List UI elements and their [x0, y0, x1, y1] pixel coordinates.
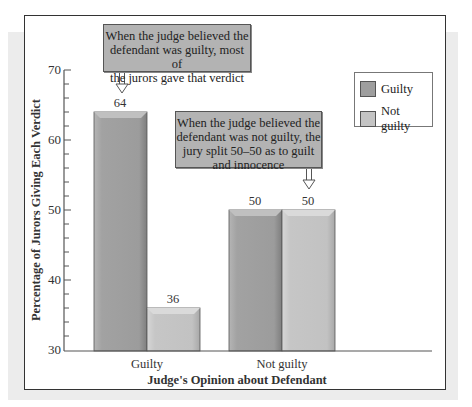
- bar-value-label: 64: [114, 96, 127, 110]
- annotation-line: When the judge believed the: [104, 29, 250, 43]
- annotation-guilty: When the judge believed the defendant wa…: [103, 24, 251, 72]
- bar-value-label: 50: [249, 194, 262, 208]
- legend-item-not-guilty: Not guilty: [360, 104, 432, 134]
- legend-label: Not guilty: [381, 104, 432, 134]
- bar-value-label: 36: [167, 292, 180, 306]
- bar-value-label: 50: [302, 194, 315, 208]
- y-axis-label: Percentage of Jurors Giving Each Verdict: [29, 98, 43, 321]
- legend-swatch-guilty: [360, 81, 376, 97]
- legend: Guilty Not guilty: [354, 72, 433, 127]
- x-category-guilty: Guilty: [131, 357, 164, 371]
- y-axis: 30 40 50 60 70 Percentage of Jurors Givi…: [29, 62, 71, 357]
- y-tick-50: 50: [48, 202, 61, 217]
- x-axis-label: Judge's Opinion about Defendant: [147, 373, 327, 387]
- annotation-line: defendant was guilty, most of: [104, 43, 250, 71]
- y-tick-30: 30: [48, 342, 61, 357]
- annotation-line: the jurors gave that verdict: [104, 71, 250, 85]
- y-tick-60: 60: [48, 132, 61, 147]
- y-tick-40: 40: [48, 272, 61, 287]
- bar-guilty-notguilty: [147, 308, 200, 351]
- y-tick-70: 70: [48, 62, 61, 77]
- bar-notguilty-notguilty: [282, 210, 335, 351]
- x-category-not-guilty: Not guilty: [256, 357, 308, 371]
- annotation-line: When the judge believed the: [176, 116, 321, 130]
- legend-item-guilty: Guilty: [360, 81, 413, 97]
- annotation-line: jury split 50–50 as to guilt: [176, 144, 321, 158]
- bar-notguilty-guilty: [229, 210, 282, 351]
- annotation-line: and innocence: [176, 158, 321, 172]
- annotation-line: defendant was not guilty, the: [176, 130, 321, 144]
- bar-guilty-guilty: [94, 112, 147, 351]
- legend-label: Guilty: [381, 82, 413, 97]
- annotation-not-guilty: When the judge believed the defendant wa…: [175, 111, 322, 168]
- legend-swatch-not-guilty: [360, 111, 376, 127]
